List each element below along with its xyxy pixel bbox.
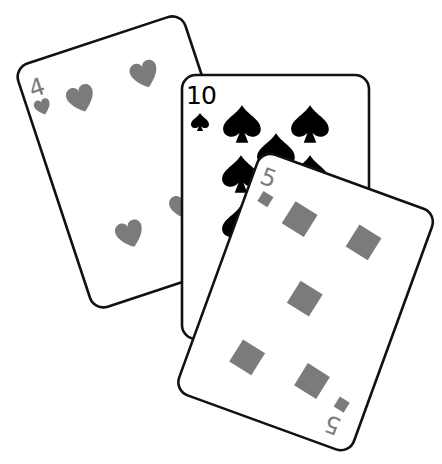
playing-cards-scene: 4 10 5 5 <box>0 0 442 464</box>
card-rank-label: 10 <box>186 81 216 110</box>
